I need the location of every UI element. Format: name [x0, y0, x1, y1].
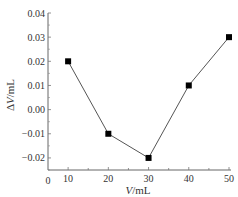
y-tick-label: −0.01: [22, 128, 45, 139]
x-tick-label: 10: [63, 173, 73, 184]
y-tick-label: 0.00: [28, 104, 46, 115]
data-point-square-marker: [105, 131, 111, 137]
x-tick-label: 50: [224, 173, 234, 184]
series-line: [68, 37, 229, 158]
y-tick-label: 0.03: [28, 32, 46, 43]
y-tick-label: 0.02: [28, 56, 46, 67]
axes: 10203040500.040.030.020.010.00−0.01−0.02: [22, 8, 234, 185]
data-point-square-marker: [226, 34, 232, 40]
y-tick-label: 0.01: [28, 80, 46, 91]
origin-label: 0: [46, 175, 51, 186]
y-axis-label: ΔV/mL: [4, 79, 16, 111]
x-tick-label: 20: [103, 173, 113, 184]
data-point-square-marker: [186, 82, 192, 88]
data-series: [65, 34, 232, 161]
data-point-square-marker: [65, 58, 71, 64]
x-tick-label: 40: [184, 173, 194, 184]
y-tick-label: 0.04: [28, 8, 46, 19]
y-tick-label: −0.02: [22, 152, 45, 163]
x-tick-label: 30: [144, 173, 154, 184]
x-axis-label: V/mL: [125, 184, 150, 196]
data-point-square-marker: [146, 155, 152, 161]
chart: 10203040500.040.030.020.010.00−0.01−0.02…: [0, 0, 238, 197]
